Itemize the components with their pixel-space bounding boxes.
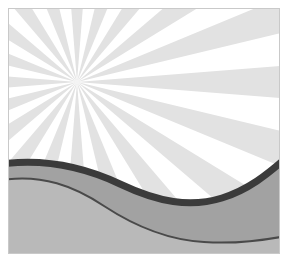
sunburst-landscape-illustration [8,8,280,254]
artboard [8,8,280,254]
illustration-canvas [0,0,289,261]
